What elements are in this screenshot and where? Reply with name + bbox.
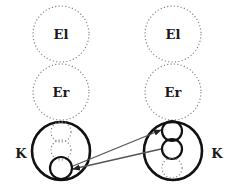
- left-er-label: Er: [53, 85, 70, 100]
- right-el-label: El: [166, 27, 181, 42]
- left-stack: El Er K: [15, 6, 90, 180]
- diagram-canvas: El Er K El Er K: [0, 0, 231, 194]
- left-k-inner-solid-circle: [50, 157, 72, 179]
- right-k-inner-dotted-bottom: [162, 158, 182, 178]
- right-k-label: K: [211, 146, 223, 161]
- right-stack: El Er K: [144, 6, 223, 180]
- left-k-inner-dotted-upper: [51, 122, 71, 142]
- left-k-circle: [32, 122, 90, 180]
- left-k-label: K: [15, 146, 27, 161]
- left-el-label: El: [54, 27, 69, 42]
- diagram-svg: El Er K El Er K: [0, 0, 231, 194]
- right-er-label: Er: [165, 85, 182, 100]
